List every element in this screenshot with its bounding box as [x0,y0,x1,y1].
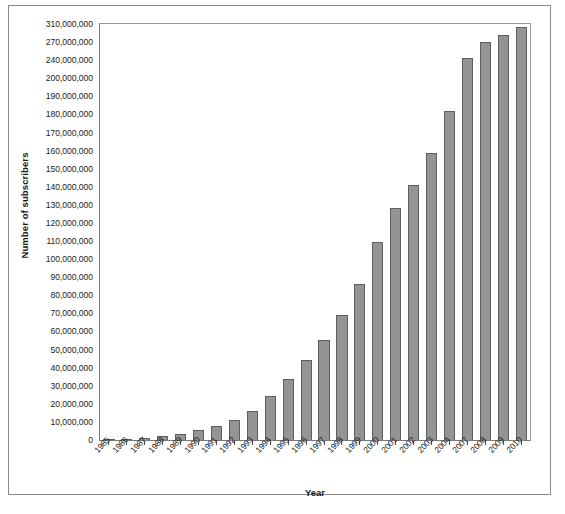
bar [372,242,383,440]
bar-chart: Number of subscribers 010,000,00020,000,… [0,0,565,514]
bar-slot [136,24,154,440]
y-axis-tick-label: 130,000,000 [46,200,93,210]
y-axis-tick-label: 170,000,000 [46,128,93,138]
y-axis-tick-label: 270,000,000 [46,37,93,47]
bar [354,284,365,440]
y-axis-tick-label: 40,000,000 [50,363,93,373]
chart-page: Number of subscribers 010,000,00020,000,… [0,0,565,514]
bar [444,111,455,440]
y-axis-tick-label: 140,000,000 [46,182,93,192]
y-axis-tick-label: 60,000,000 [50,326,93,336]
bar-slot [279,24,297,440]
y-axis-tick-label: 200,000,000 [46,73,93,83]
bar [283,379,294,440]
bar-slot [154,24,172,440]
x-label-slot: 2010 [512,446,530,488]
y-axis-tick-label: 90,000,000 [50,272,93,282]
y-axis-tick-label: 180,000,000 [46,109,93,119]
bar-slot [387,24,405,440]
y-axis-tick-label: 240,000,000 [46,55,93,65]
y-axis-tick-label: 0 [88,435,93,445]
y-axis-tick-label: 70,000,000 [50,308,93,318]
bar-slot [297,24,315,440]
bar-slot [476,24,494,440]
y-axis-tick-label: 310,000,000 [46,19,93,29]
y-axis-tick-label: 120,000,000 [46,218,93,228]
bar [336,315,347,440]
bar [498,35,509,440]
bar-slot [405,24,423,440]
bar-slot [512,24,530,440]
bar-slot [243,24,261,440]
bar-series [100,24,530,440]
y-axis-tick-label: 10,000,000 [50,417,93,427]
bar-slot [261,24,279,440]
y-axis-tick-label: 150,000,000 [46,164,93,174]
bar-slot [315,24,333,440]
y-axis-tick-labels: 010,000,00020,000,00030,000,00040,000,00… [18,0,93,460]
y-axis-tick-label: 110,000,000 [46,236,93,246]
y-axis-tick-label: 80,000,000 [50,290,93,300]
bar-slot [369,24,387,440]
bar-slot [208,24,226,440]
bar-slot [494,24,512,440]
y-axis-tick-label: 50,000,000 [50,345,93,355]
bar-slot [333,24,351,440]
y-axis-tick-label: 30,000,000 [50,381,93,391]
bar-slot [118,24,136,440]
bar [462,58,473,440]
bar-slot [351,24,369,440]
bar [426,153,437,440]
bar [265,396,276,440]
bar-slot [441,24,459,440]
bar-slot [190,24,208,440]
bar [318,340,329,440]
x-axis-tick-labels: 1985198619871988198919901991199219931994… [100,446,530,488]
y-axis-tick-label: 20,000,000 [50,399,93,409]
bar-slot [100,24,118,440]
bar-slot [458,24,476,440]
y-axis-tick-label: 190,000,000 [46,91,93,101]
bar [480,42,491,440]
x-axis-title: Year [99,487,531,498]
bar-slot [172,24,190,440]
y-axis-tick-label: 160,000,000 [46,146,93,156]
bar [301,360,312,440]
y-axis-tick-label: 100,000,000 [46,254,93,264]
bar [408,185,419,440]
bar [516,27,527,440]
bar [390,208,401,440]
bar-slot [225,24,243,440]
bar-slot [423,24,441,440]
